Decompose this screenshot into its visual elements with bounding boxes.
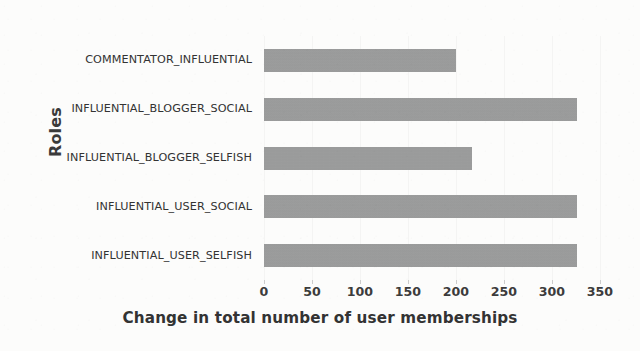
y-axis-tick-label: INFLUENTIAL_BLOGGER_SOCIAL <box>71 102 252 116</box>
x-axis-tick-label: 0 <box>244 284 284 299</box>
plot-area <box>264 36 600 280</box>
y-axis-tick-label: INFLUENTIAL_BLOGGER_SELFISH <box>67 151 252 165</box>
bar <box>264 147 472 170</box>
gridline <box>600 36 601 280</box>
x-axis-tick-label: 100 <box>340 284 380 299</box>
y-axis-tick-label: INFLUENTIAL_USER_SELFISH <box>91 249 252 263</box>
x-axis-tick-label: 300 <box>532 284 572 299</box>
x-axis-title: Change in total number of user membershi… <box>0 309 640 327</box>
bar <box>264 244 577 267</box>
bar-chart: Roles INFLUENTIAL_USER_SELFISHINFLUENTIA… <box>0 0 640 351</box>
x-axis-tick-label: 250 <box>484 284 524 299</box>
bar <box>264 98 577 121</box>
bar <box>264 49 456 72</box>
x-axis-tick-label: 50 <box>292 284 332 299</box>
y-axis-tick-labels: INFLUENTIAL_USER_SELFISHINFLUENTIAL_USER… <box>45 36 258 280</box>
x-axis: 050100150200250300350 <box>264 280 600 302</box>
x-axis-tick-label: 200 <box>436 284 476 299</box>
y-axis-tick-label: COMMENTATOR_INFLUENTIAL <box>85 53 252 67</box>
y-axis-tick-label: INFLUENTIAL_USER_SOCIAL <box>96 200 252 214</box>
x-axis-tick-label: 350 <box>580 284 620 299</box>
bar <box>264 195 577 218</box>
x-axis-tick-label: 150 <box>388 284 428 299</box>
